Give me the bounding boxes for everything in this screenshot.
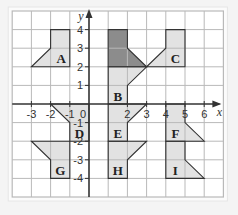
shape-label-h: H: [113, 163, 123, 178]
x-tick-label: 2: [124, 108, 130, 120]
y-tick-label: -4: [73, 172, 83, 184]
x-tick-label: -2: [46, 108, 56, 120]
y-tick-label: 4: [77, 24, 83, 36]
shape-label-f: F: [171, 126, 179, 141]
x-tick-label: 6: [201, 108, 207, 120]
y-tick-label: 1: [77, 79, 83, 91]
x-tick-label: -3: [27, 108, 37, 120]
shape-label-d: D: [75, 126, 84, 141]
x-tick-label: 5: [182, 108, 188, 120]
y-tick-label: 3: [77, 42, 83, 54]
shape-label-b: B: [113, 89, 122, 104]
x-tick-label: 3: [144, 108, 150, 120]
shape-label-i: I: [173, 163, 178, 178]
x-axis-name: x: [216, 105, 223, 119]
x-tick-label: 4: [163, 108, 169, 120]
y-tick-label: 2: [77, 61, 83, 73]
y-tick-label: -3: [73, 154, 83, 166]
shape-label-g: G: [55, 163, 65, 178]
shape-label-c: C: [171, 51, 180, 66]
y-axis-name: y: [77, 9, 84, 23]
shape-label-e: E: [113, 126, 122, 141]
coordinate-grid-diagram: xy-3-2-10234564321-1-2-3-4ABCDEFGHI x y: [0, 0, 238, 215]
shape-label-a: A: [56, 51, 66, 66]
grid-plot: xy-3-2-10234564321-1-2-3-4ABCDEFGHI: [0, 0, 238, 215]
